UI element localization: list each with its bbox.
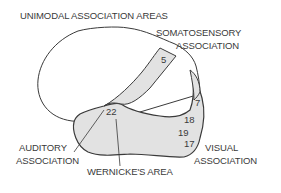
area-22-number: 22 — [106, 107, 117, 117]
area-17-number: 17 — [184, 139, 195, 149]
visual-label-line1: VISUAL — [205, 142, 238, 153]
auditory-label-line1: AUDITORY — [19, 142, 67, 153]
somatosensory-label-line1: SOMATOSENSORY — [156, 27, 241, 38]
area-19-number: 19 — [178, 128, 189, 138]
area-5-number: 5 — [161, 55, 166, 65]
wernicke-label: WERNICKE'S AREA — [87, 166, 173, 177]
area-18-number: 18 — [184, 115, 195, 125]
visual-label-line2: ASSOCIATION — [194, 155, 257, 166]
unimodal-areas-label: UNIMODAL ASSOCIATION AREAS — [20, 10, 168, 21]
area-7-number: 7 — [195, 98, 200, 108]
auditory-label-line2: ASSOCIATION — [16, 155, 79, 166]
somatosensory-label-line2: ASSOCIATION — [176, 40, 239, 51]
